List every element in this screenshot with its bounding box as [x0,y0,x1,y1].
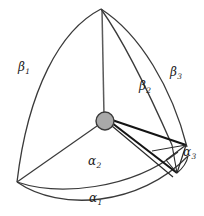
edge-cross-chord [152,145,186,151]
label-alpha-3: α3 [183,146,196,158]
label-beta-2-base: β [139,79,146,93]
label-beta-1-sub: 1 [25,67,30,76]
label-beta-3: β3 [170,66,182,78]
label-beta-1-base: β [18,60,25,74]
label-beta-2-sub: 2 [146,86,151,95]
label-alpha-3-base: α [183,145,191,159]
label-alpha-2-sub: 2 [96,161,101,170]
label-alpha-1-base: α [89,191,97,205]
label-beta-2: β2 [139,80,151,92]
edge-center-to-apex [102,9,104,116]
label-alpha-2-base: α [88,154,96,168]
label-beta-3-sub: 3 [177,72,182,81]
wedge-edge-sliver [112,126,173,177]
label-alpha-1-sub: 1 [97,198,102,207]
geometry-canvas [0,0,204,216]
edge-center-to-bottom-left [17,126,97,182]
center-node [96,112,114,130]
label-beta-1: β1 [18,61,30,73]
label-alpha-2: α2 [88,155,101,167]
label-alpha-1: α1 [89,192,102,204]
figure-container: β1 β2 β3 α1 α2 α3 [0,0,204,216]
label-alpha-3-sub: 3 [191,152,196,161]
label-beta-3-base: β [170,65,177,79]
